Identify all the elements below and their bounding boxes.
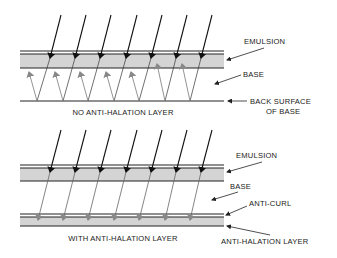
incident-rays [50,15,212,58]
label-back-surface-2: OF BASE [266,107,300,116]
halation-diagram: NO ANTI-HALATION LAYER EMULSION BASE BAC… [0,0,337,258]
top-caption: NO ANTI-HALATION LAYER [72,108,173,117]
bottom-caption: WITH ANTI-HALATION LAYER [68,234,178,243]
label-base-top: BASE [243,70,264,79]
label-anti-curl: ANTI-CURL [249,199,291,208]
label-emulsion-top: EMULSION [244,37,285,46]
label-anti-halation: ANTI-HALATION LAYER [221,237,309,246]
label-emulsion-bottom: EMULSION [236,151,277,160]
reflected-rays [29,64,190,101]
anti-halation-layer [20,217,224,226]
label-base-bottom: BASE [230,182,251,191]
label-back-surface-1: BACK SURFACE [250,97,311,106]
bottom-panel: WITH ANTI-HALATION LAYER EMULSION BASE A… [20,130,309,246]
top-panel: NO ANTI-HALATION LAYER EMULSION BASE BAC… [20,15,311,117]
